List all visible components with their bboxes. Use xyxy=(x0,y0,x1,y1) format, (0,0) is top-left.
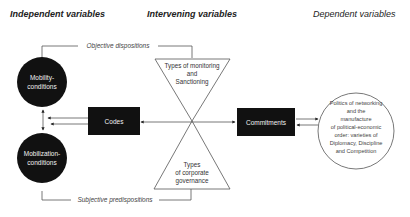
outcome-label-4: of political-economic xyxy=(331,124,382,130)
outcome-label-5: order: varieties of xyxy=(334,132,378,138)
outcome-label-2: and the xyxy=(347,108,366,114)
mobilization-label-2: conditions xyxy=(27,159,57,166)
bottom-triangle-label-3: governance xyxy=(176,177,209,185)
codes-label: Codes xyxy=(105,118,125,125)
commitments-label: Commitments xyxy=(246,119,287,126)
header-intervening: Intervening variables xyxy=(147,9,237,19)
bracket-line-right xyxy=(159,189,191,200)
top-triangle-label-1: Types of monitoring xyxy=(165,62,220,70)
objective-dispositions-bracket: Objective dispositions xyxy=(42,42,192,58)
outcome-node: Politics of networking and the manufactu… xyxy=(318,93,394,169)
mobility-conditions-node: Mobility- conditions xyxy=(17,57,67,107)
codes-node: Codes xyxy=(88,107,140,135)
objective-dispositions-label: Objective dispositions xyxy=(87,42,151,50)
bracket-line-right xyxy=(158,46,192,58)
mobility-label-1: Mobility- xyxy=(30,74,54,82)
header-independent: Independent variables xyxy=(10,9,105,19)
top-triangle-label-2: and xyxy=(187,70,198,77)
outcome-label-1: Politics of networking xyxy=(330,100,383,106)
bracket-line-left xyxy=(42,46,78,58)
mobilization-conditions-node: Mobilization- conditions xyxy=(17,133,67,183)
mobility-label-2: conditions xyxy=(27,83,57,90)
mobilization-label-1: Mobilization- xyxy=(24,150,61,157)
subjective-predispositions-label: Subjective predispositions xyxy=(77,196,153,204)
outcome-label-6: Diplomacy, Discipline xyxy=(330,140,383,146)
bottom-triangle-label-2: of corporate xyxy=(175,169,209,177)
outcome-label-3: manufacture xyxy=(340,116,371,122)
bracket-line-left xyxy=(42,191,71,200)
outcome-label-7: and Competition xyxy=(336,148,377,154)
subjective-predispositions-bracket: Subjective predispositions xyxy=(42,189,191,204)
header-dependent: Dependent variables xyxy=(313,9,396,19)
bottom-triangle-label-1: Types xyxy=(184,161,201,169)
hourglass-node: Types of monitoring and Sanctioning Type… xyxy=(154,59,230,189)
commitments-node: Commitments xyxy=(237,108,295,136)
diagram-canvas: Independent variables Intervening variab… xyxy=(0,0,410,217)
top-triangle-label-3: Sanctioning xyxy=(176,78,209,86)
